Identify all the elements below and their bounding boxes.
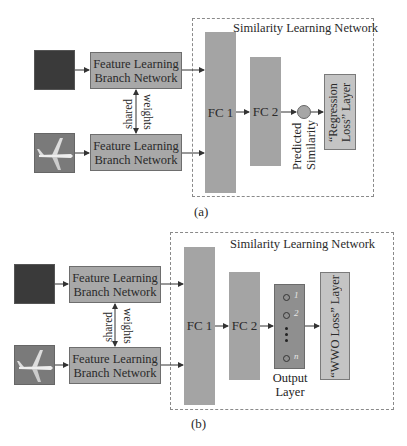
connection-arrows (0, 0, 407, 446)
